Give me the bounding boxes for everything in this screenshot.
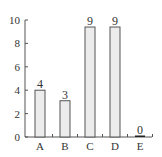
bar-b	[60, 101, 70, 137]
bar-value-label: 9	[87, 14, 93, 28]
x-tick-label: B	[61, 140, 68, 152]
x-tick-label: A	[36, 140, 44, 152]
y-axis: 0246810	[9, 14, 28, 143]
bar-a	[35, 90, 45, 137]
bar-d	[110, 27, 120, 137]
x-tick-label: E	[137, 140, 144, 152]
y-tick-label: 4	[15, 84, 21, 96]
bar-value-label: 0	[137, 123, 143, 137]
bar-c	[85, 27, 95, 137]
bar-chart: 0246810 ABCDE 43990	[0, 0, 162, 157]
bar-value-label: 3	[62, 88, 68, 102]
y-tick-label: 0	[15, 131, 21, 143]
bar-value-label: 9	[112, 14, 118, 28]
bars: 43990	[35, 14, 145, 137]
y-tick-label: 6	[15, 61, 21, 73]
y-tick-label: 2	[15, 108, 21, 120]
y-tick-label: 8	[15, 37, 21, 49]
x-tick-label: D	[111, 140, 119, 152]
y-tick-label: 10	[9, 14, 21, 26]
x-tick-label: C	[86, 140, 93, 152]
bar-value-label: 4	[37, 77, 43, 91]
